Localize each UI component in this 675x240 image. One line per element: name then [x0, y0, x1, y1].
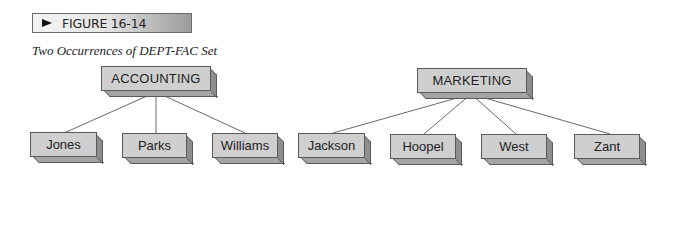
connector-marketing-jackson	[333, 94, 471, 133]
member-node-jackson: Jackson	[298, 133, 365, 158]
member-node-hoopel: Hoopel	[390, 134, 456, 159]
connector-marketing-zant	[471, 94, 610, 134]
member-node-williams: Williams	[212, 133, 278, 158]
owner-node-accounting: ACCOUNTING	[101, 66, 211, 91]
member-label: Hoopel	[402, 139, 443, 154]
owner-label: MARKETING	[432, 73, 511, 88]
member-node-west: West	[481, 134, 547, 159]
member-node-parks: Parks	[122, 133, 187, 158]
member-label: Jones	[46, 137, 81, 152]
member-node-jones: Jones	[30, 132, 97, 157]
member-label: Zant	[594, 139, 620, 154]
connector-marketing-hoopel	[424, 94, 471, 134]
connector-accounting-williams	[156, 92, 245, 133]
owner-label: ACCOUNTING	[111, 71, 200, 86]
member-label: West	[499, 139, 528, 154]
member-label: Jackson	[308, 138, 356, 153]
connector-accounting-jones	[64, 92, 156, 133]
owner-node-marketing: MARKETING	[417, 68, 527, 93]
member-node-zant: Zant	[574, 134, 640, 159]
member-label: Williams	[221, 138, 269, 153]
member-label: Parks	[138, 138, 171, 153]
